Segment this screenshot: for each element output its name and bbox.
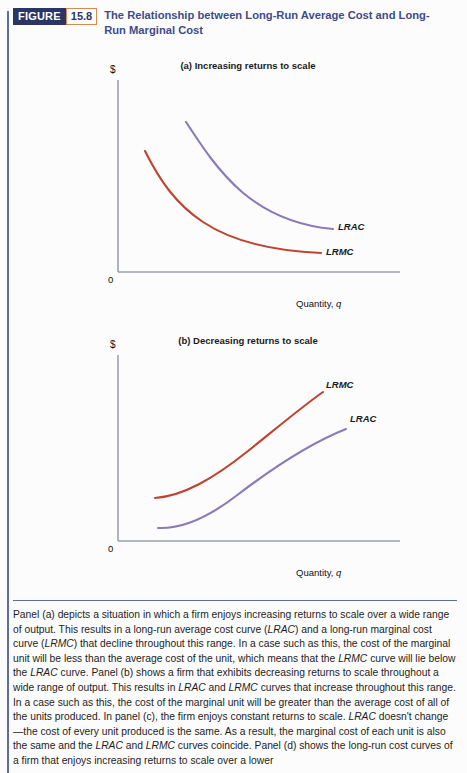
panel-b-chart-svg xyxy=(108,351,408,566)
panel-b-x-axis-label-var: q xyxy=(336,567,341,578)
panel-a-chart-svg xyxy=(108,76,408,291)
panel-a-y-axis-label: $ xyxy=(110,64,116,75)
panel-b-lrac-label: LRAC xyxy=(350,413,376,424)
panel-a: (a) Increasing returns to scale $ 0 LRAC… xyxy=(108,60,408,300)
panel-b-x-axis-label: Quantity, q xyxy=(296,567,341,578)
figure-header: FIGURE 15.8 The Relationship between Lon… xyxy=(13,8,461,38)
panel-b-curve-lrac xyxy=(158,429,346,528)
panel-b-origin-label: 0 xyxy=(108,543,113,554)
panel-a-curve-lrmc xyxy=(145,151,321,253)
panel-a-title: (a) Increasing returns to scale xyxy=(108,60,388,71)
panel-b: (b) Decreasing returns to scale $ 0 LRMC… xyxy=(108,335,408,585)
panel-b-lrmc-label: LRMC xyxy=(326,379,353,390)
panel-b-plot: $ 0 LRMC LRAC Quantity, q xyxy=(108,351,408,566)
figure-caption: Panel (a) depicts a situation in which a… xyxy=(13,600,457,769)
figure-number-badge: 15.8 xyxy=(66,8,97,25)
panel-b-x-axis-label-text: Quantity, xyxy=(296,567,336,578)
panel-a-lrac-label: LRAC xyxy=(338,221,364,232)
figure-title: The Relationship between Long-Run Averag… xyxy=(104,8,434,38)
panel-b-curve-lrmc xyxy=(155,392,323,498)
panel-a-x-axis-label-var: q xyxy=(336,298,341,309)
panel-a-x-axis-label-text: Quantity, xyxy=(296,298,336,309)
panel-b-y-axis-label: $ xyxy=(110,339,116,350)
panel-b-title: (b) Decreasing returns to scale xyxy=(108,335,388,346)
panel-a-curve-lrac xyxy=(186,122,333,229)
figure-left-rule xyxy=(7,11,9,773)
panel-a-origin-label: 0 xyxy=(108,274,113,285)
panel-a-x-axis-label: Quantity, q xyxy=(296,298,341,309)
panel-a-plot: $ 0 LRAC LRMC Quantity, q xyxy=(108,76,408,291)
panel-a-lrmc-label: LRMC xyxy=(326,246,353,257)
figure-tag-label: FIGURE xyxy=(13,8,66,25)
figure-caption-text: Panel (a) depicts a situation in which a… xyxy=(13,608,457,769)
figure-page: FIGURE 15.8 The Relationship between Lon… xyxy=(0,0,467,773)
